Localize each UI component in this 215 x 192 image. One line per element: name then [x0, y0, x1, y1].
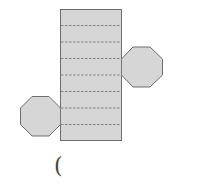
prism-net-figure: [0, 0, 215, 192]
bottom-base-octagon: [21, 97, 61, 137]
top-base-octagon: [122, 47, 163, 87]
answer-blank-paren: (: [54, 155, 63, 177]
